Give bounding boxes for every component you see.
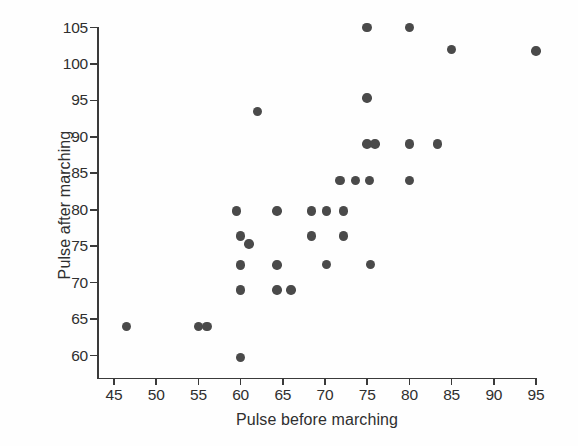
data-point xyxy=(365,176,375,186)
data-point xyxy=(236,285,246,295)
y-tick-mark xyxy=(90,282,97,284)
data-point xyxy=(405,139,415,149)
y-tick-mark xyxy=(90,172,97,174)
data-point xyxy=(194,322,204,332)
data-point xyxy=(286,285,296,295)
data-point xyxy=(531,46,541,56)
data-point xyxy=(362,23,372,33)
data-point xyxy=(447,45,457,55)
data-point xyxy=(272,206,282,216)
x-tick-mark xyxy=(198,378,200,385)
data-point xyxy=(370,139,380,149)
x-tick-mark xyxy=(324,378,326,385)
x-tick-mark xyxy=(409,378,411,385)
y-tick-mark xyxy=(90,100,97,102)
y-tick-mark xyxy=(90,27,97,29)
data-point xyxy=(253,107,263,117)
data-point xyxy=(433,139,443,149)
data-point xyxy=(405,23,415,33)
x-tick-label: 60 xyxy=(221,387,261,403)
x-tick-label: 55 xyxy=(178,387,218,403)
y-tick-mark xyxy=(90,355,97,357)
x-tick-label: 75 xyxy=(347,387,387,403)
x-axis-title: Pulse before marching xyxy=(97,411,537,429)
x-axis-line xyxy=(97,378,537,380)
data-point xyxy=(405,176,415,186)
y-axis-line xyxy=(97,27,99,379)
x-tick-mark xyxy=(282,378,284,385)
data-point xyxy=(351,176,361,186)
data-point xyxy=(244,239,254,249)
x-tick-label: 90 xyxy=(474,387,514,403)
data-point xyxy=(339,231,349,241)
y-axis-title: Pulse after marching xyxy=(56,55,74,355)
x-tick-mark xyxy=(113,378,115,385)
data-point xyxy=(232,206,242,216)
data-point xyxy=(322,260,332,270)
y-tick-label-text: 105 xyxy=(48,20,88,36)
y-tick-mark xyxy=(90,136,97,138)
x-tick-label: 85 xyxy=(432,387,472,403)
y-tick-label: 105 xyxy=(40,20,88,36)
x-tick-label: 50 xyxy=(136,387,176,403)
data-point xyxy=(202,322,212,332)
data-point xyxy=(322,206,332,216)
x-tick-mark xyxy=(493,378,495,385)
x-tick-mark xyxy=(535,378,537,385)
data-point xyxy=(339,206,349,216)
data-point xyxy=(272,285,282,295)
data-point xyxy=(272,260,282,270)
data-point xyxy=(307,206,317,216)
y-tick-mark xyxy=(90,209,97,211)
x-tick-label: 45 xyxy=(94,387,134,403)
data-point xyxy=(236,353,246,363)
x-tick-label: 65 xyxy=(263,387,303,403)
x-tick-mark xyxy=(366,378,368,385)
y-tick-mark xyxy=(90,63,97,65)
scatter-plot: 6065707580859095100105 45505560657075808… xyxy=(0,0,578,446)
x-tick-label: 95 xyxy=(516,387,556,403)
y-tick-mark xyxy=(90,318,97,320)
y-tick-mark xyxy=(90,245,97,247)
data-point xyxy=(366,260,376,270)
x-tick-mark xyxy=(155,378,157,385)
data-point xyxy=(122,322,132,332)
x-tick-mark xyxy=(240,378,242,385)
x-tick-mark xyxy=(451,378,453,385)
data-point xyxy=(236,231,246,241)
data-point xyxy=(362,93,372,103)
x-tick-label: 70 xyxy=(305,387,345,403)
data-point xyxy=(335,176,345,186)
data-point xyxy=(307,231,317,241)
data-point xyxy=(236,260,246,270)
data-point xyxy=(362,139,372,149)
x-tick-label: 80 xyxy=(389,387,429,403)
